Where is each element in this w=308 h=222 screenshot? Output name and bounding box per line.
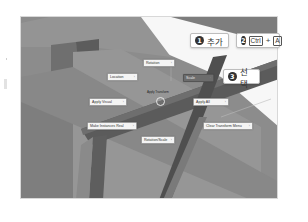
chevron-right-icon: › [133, 123, 134, 129]
ctrl-key: Ctrl [249, 36, 263, 46]
pie-item-label: Rotation [146, 61, 159, 65]
plus-sign: + [266, 36, 271, 45]
step-number-badge: 1 [195, 36, 204, 45]
pie-item-label: Apply Visual [92, 100, 112, 104]
chevron-right-icon: › [171, 137, 172, 143]
callout-step-3: 3 선택 [223, 69, 260, 84]
pie-item-scale[interactable]: Scale › [183, 74, 214, 82]
chevron-right-icon: › [134, 74, 135, 80]
pie-item-make-instances-real[interactable]: Make Instances Real › [87, 122, 137, 130]
pie-item-apply-visual[interactable]: Apply Visual › [89, 98, 127, 106]
callout-step-2: 2 Ctrl + A [236, 33, 280, 48]
pie-item-label: Apply All [196, 100, 210, 104]
pie-item-label: Make Instances Real [90, 124, 124, 128]
pie-item-rotation[interactable]: Rotation › [143, 59, 175, 67]
pie-item-label: Rotation/Scale [144, 138, 167, 142]
callout-text: 추가 [207, 35, 223, 47]
a-key: A [273, 36, 281, 46]
chevron-right-icon: › [210, 75, 211, 81]
left-margin-mark [6, 58, 7, 60]
pie-item-label: Scale [186, 76, 195, 80]
pie-item-location[interactable]: Location › [107, 73, 138, 81]
chevron-right-icon: › [225, 99, 226, 105]
callout-step-1: 1 추가 [190, 33, 229, 48]
pie-menu-title: Apply Transform [147, 90, 169, 94]
pie-item-label: Location [110, 75, 124, 79]
chevron-right-icon: › [123, 99, 124, 105]
pie-item-rotation-scale[interactable]: Rotation/Scale › [141, 136, 175, 144]
chevron-right-icon: › [249, 123, 250, 129]
pie-center-icon [156, 97, 165, 106]
chevron-right-icon: › [171, 60, 172, 66]
pie-item-label: Clear Transform Menu [206, 124, 242, 128]
step-number-badge: 2 [241, 36, 246, 45]
step-number-badge: 3 [228, 72, 237, 81]
pie-item-apply-all[interactable]: Apply All › [193, 98, 229, 106]
left-margin-mark [4, 79, 7, 89]
pie-item-clear-transform-menu[interactable]: Clear Transform Menu › [203, 122, 253, 130]
callout-text: 선택 [240, 65, 255, 89]
